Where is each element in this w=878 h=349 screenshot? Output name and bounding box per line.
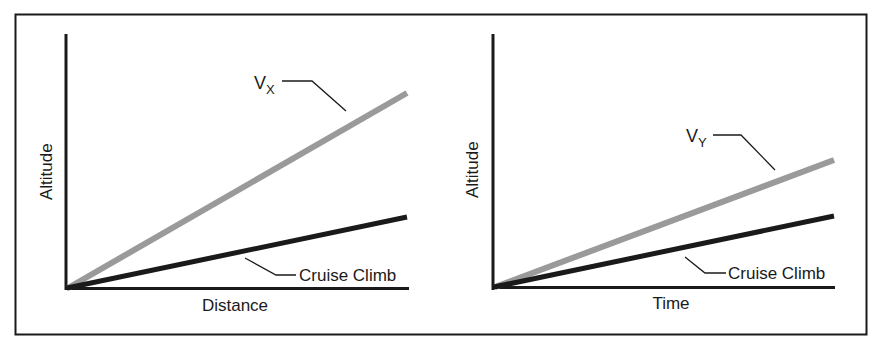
left-cruise-climb-label: Cruise Climb bbox=[299, 266, 396, 285]
right-cruise-climb-label: Cruise Climb bbox=[728, 264, 825, 283]
left-y-axis-label: Altitude bbox=[37, 143, 56, 200]
vx-line bbox=[68, 93, 407, 288]
right-x-axis-label: Time bbox=[652, 294, 689, 313]
right-chart: Altitude Time VY Cruise Climb bbox=[463, 34, 835, 313]
right-y-axis-label: Altitude bbox=[463, 141, 482, 198]
vy-label: VY bbox=[686, 126, 707, 150]
left-cruise-leader-line bbox=[245, 258, 296, 275]
right-cruise-leader-line bbox=[685, 257, 726, 273]
vy-leader-line bbox=[713, 135, 775, 170]
left-x-axis-label: Distance bbox=[202, 296, 268, 315]
vx-label: VX bbox=[254, 73, 275, 97]
figure-canvas: Altitude Distance VX Cruise Climb Altitu… bbox=[0, 0, 878, 349]
vx-leader-line bbox=[282, 81, 346, 111]
left-chart: Altitude Distance VX Cruise Climb bbox=[37, 34, 409, 315]
